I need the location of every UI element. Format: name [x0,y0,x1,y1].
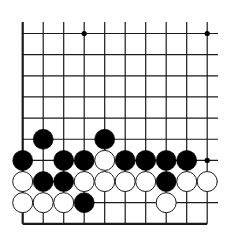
black-stone[interactable] [74,150,94,170]
black-stone[interactable] [54,172,74,192]
white-stone[interactable] [74,172,94,192]
white-stone[interactable] [95,172,115,192]
white-stone[interactable] [33,193,53,213]
star-point-icon [82,31,87,36]
white-stone[interactable] [95,150,115,170]
white-stone[interactable] [156,193,176,213]
grid-lines [23,22,218,224]
black-stone[interactable] [156,150,176,170]
white-stone[interactable] [115,172,135,192]
white-stone[interactable] [54,193,74,213]
black-stone[interactable] [115,150,135,170]
black-stone[interactable] [13,150,33,170]
go-board-diagram[interactable] [0,0,230,234]
star-point-icon [205,31,210,36]
white-stone[interactable] [197,172,217,192]
black-stone[interactable] [136,150,156,170]
black-stone[interactable] [95,129,115,149]
star-point-icon [205,158,210,163]
white-stone[interactable] [13,193,33,213]
black-stone[interactable] [54,150,74,170]
black-stone[interactable] [74,193,94,213]
black-stone[interactable] [33,172,53,192]
black-stone[interactable] [156,172,176,192]
white-stone[interactable] [13,172,33,192]
go-board[interactable] [0,0,230,234]
black-stone[interactable] [33,129,53,149]
black-stone[interactable] [177,150,197,170]
white-stone[interactable] [177,172,197,192]
white-stone[interactable] [136,172,156,192]
